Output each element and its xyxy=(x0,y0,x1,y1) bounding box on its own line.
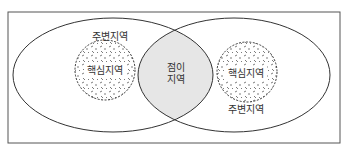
transition-label-line2: 지역 xyxy=(167,74,185,85)
transition-label-line1: 점이 xyxy=(167,62,185,73)
left-core-label: 핵심지역 xyxy=(87,65,123,76)
right-core-label: 핵심지역 xyxy=(228,68,264,79)
regional-structure-diagram: 주변지역 핵심지역 점이 지역 핵심지역 주변지역 xyxy=(0,0,349,155)
right-periphery-label: 주변지역 xyxy=(228,104,264,115)
left-periphery-label: 주변지역 xyxy=(92,31,128,42)
